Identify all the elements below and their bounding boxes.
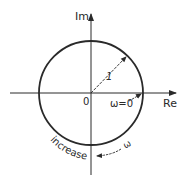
increase-label-path: increase [49,134,89,162]
radius-label: 1 [106,71,112,82]
origin-label: 0 [83,96,89,107]
direction-arrow [97,149,121,156]
unit-circle-diagram: Im Re 0 1 ω=0 ω increase [0,0,189,183]
increase-label: increase [49,134,89,162]
imag-axis-label: Im [75,10,89,23]
omega-zero-label: ω=0 [110,98,133,109]
real-axis-label: Re [163,97,177,110]
omega-symbol: ω [121,138,133,150]
